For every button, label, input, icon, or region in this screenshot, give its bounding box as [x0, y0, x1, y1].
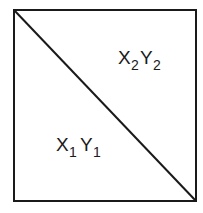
label-x1y1: X 1 Y 1: [56, 134, 101, 160]
label-x2-subscript: 2: [131, 57, 139, 73]
label-x2y2: X 2 Y 2: [118, 47, 161, 73]
label-y2: Y: [140, 47, 153, 68]
label-x1-subscript: 1: [69, 144, 77, 160]
label-y1-subscript: 1: [93, 144, 101, 160]
label-x2: X: [118, 47, 131, 68]
label-y1: Y: [80, 134, 93, 155]
diagonal-line: [14, 10, 196, 201]
square-diagram: X 2 Y 2 X 1 Y 1: [0, 0, 203, 213]
label-y2-subscript: 2: [153, 57, 161, 73]
label-x1: X: [56, 134, 69, 155]
